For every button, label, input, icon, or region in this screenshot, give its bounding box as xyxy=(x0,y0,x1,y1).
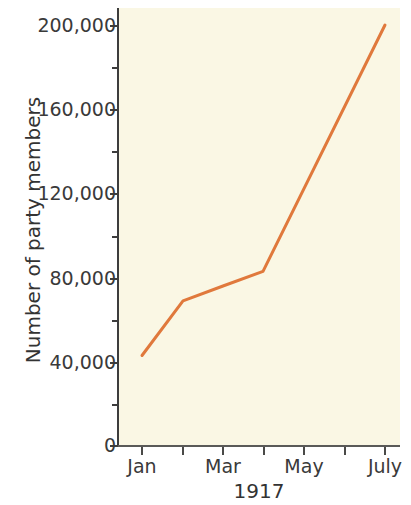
x-tick-feb xyxy=(182,447,184,455)
y-tick-label-200000: 200,000 xyxy=(37,14,116,36)
x-tick-label-mar: Mar xyxy=(193,455,253,477)
x-tick-label-july: July xyxy=(355,455,411,477)
x-tick-july xyxy=(384,447,386,455)
x-tick-apr xyxy=(263,447,265,455)
x-tick-mar xyxy=(222,447,224,455)
x-tick-june xyxy=(344,447,346,455)
x-axis-title: 1917 xyxy=(118,479,400,503)
y-minor-tick-60000 xyxy=(112,320,118,322)
y-minor-tick-140000 xyxy=(112,151,118,153)
chart-figure: 200,000 160,000 120,000 80,000 40,000 0 … xyxy=(0,0,411,505)
x-tick-label-may: May xyxy=(274,455,334,477)
y-axis-line xyxy=(117,8,119,446)
x-tick-label-jan: Jan xyxy=(112,455,172,477)
y-tick-label-40000: 40,000 xyxy=(50,351,116,373)
x-tick-may xyxy=(303,447,305,455)
y-minor-tick-20000 xyxy=(112,404,118,406)
plot-area xyxy=(118,8,400,446)
y-tick-label-0: 0 xyxy=(104,434,116,456)
y-axis-title: Number of party members xyxy=(21,65,45,395)
y-tick-label-160000: 160,000 xyxy=(37,98,116,120)
x-tick-jan xyxy=(141,447,143,455)
y-minor-tick-100000 xyxy=(112,236,118,238)
y-minor-tick-180000 xyxy=(112,67,118,69)
y-tick-label-80000: 80,000 xyxy=(50,267,116,289)
x-axis-line xyxy=(117,445,400,447)
y-tick-label-120000: 120,000 xyxy=(37,182,116,204)
